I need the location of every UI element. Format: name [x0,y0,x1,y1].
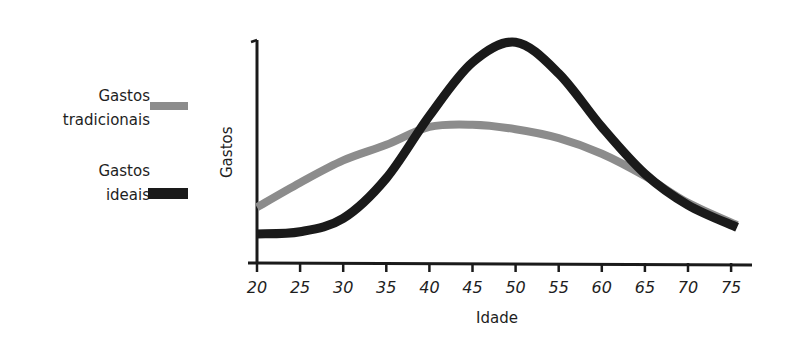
x-tick-label: 40 [419,278,439,297]
x-ticks: 202530354045505560657075 [247,263,741,297]
x-tick-label: 35 [376,278,396,297]
series-line-ideal [257,42,737,234]
series [257,42,737,234]
legend-swatch-ideal [148,188,188,199]
x-axis [248,263,752,265]
y-axis-label: Gastos [218,126,236,178]
x-tick-label: 55 [549,278,569,297]
x-tick-label: 25 [290,278,310,297]
series-line-traditional [257,124,737,225]
legend-label-ideal: Gastos ideais [40,159,150,207]
x-tick-label: 65 [635,278,655,297]
legend-swatch-traditional [150,102,188,110]
x-tick-label: 45 [462,278,482,297]
x-tick-label: 75 [721,278,741,297]
x-tick-label: 20 [247,278,267,297]
x-tick-label: 60 [592,278,612,297]
x-tick-label: 50 [505,278,525,297]
legend-label-traditional: Gastos tradicionais [40,84,150,132]
x-axis-label: Idade [476,309,518,327]
x-tick-label: 70 [678,278,698,297]
x-tick-label: 30 [333,278,353,297]
